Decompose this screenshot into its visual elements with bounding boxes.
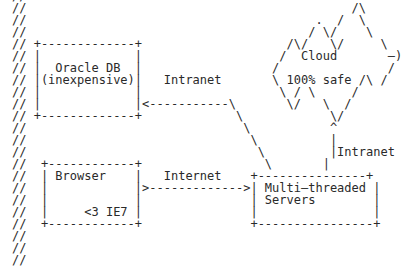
diagram-line: // [12, 230, 402, 242]
diagram-line-bottom: // +------------+ +----------------+ [12, 218, 402, 230]
diagram-line: // [12, 254, 402, 266]
ascii-diagram: //// /\// . / \// / \/ \// +------------… [12, 0, 402, 266]
diagram-line: // [12, 242, 402, 254]
